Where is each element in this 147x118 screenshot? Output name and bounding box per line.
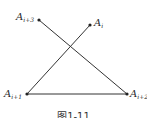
point-ai1 bbox=[25, 92, 28, 95]
label-ai3-sub: i+3 bbox=[23, 16, 34, 23]
label-ai: Ai bbox=[94, 18, 103, 29]
label-ai1: Ai+1 bbox=[4, 89, 22, 100]
segment-ai3-ai2 bbox=[39, 20, 127, 94]
point-ai3 bbox=[37, 18, 40, 21]
label-ai2: Ai+2 bbox=[130, 89, 147, 100]
figure-caption: 图1-11 bbox=[0, 108, 147, 118]
label-ai2-sub: i+2 bbox=[137, 93, 147, 100]
label-ai3: Ai+3 bbox=[16, 12, 34, 23]
point-ai2 bbox=[125, 92, 128, 95]
point-ai bbox=[88, 23, 91, 26]
segment-ai-ai1 bbox=[27, 25, 90, 94]
label-ai1-sub: i+1 bbox=[11, 93, 22, 100]
label-ai-sub: i bbox=[101, 22, 103, 29]
